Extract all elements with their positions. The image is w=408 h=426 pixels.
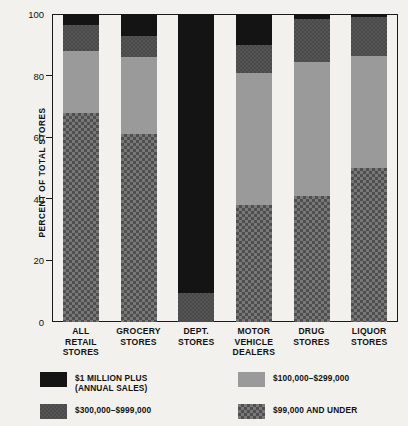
legend-item: $1 MILLION PLUS(ANNUAL SALES) bbox=[40, 372, 147, 393]
bar-stack bbox=[294, 14, 330, 322]
bar-segment bbox=[178, 14, 214, 293]
y-axis-tick-label: 0 bbox=[0, 317, 44, 328]
legend-item: $100,000–$299,000 bbox=[238, 372, 349, 387]
bar-segment bbox=[351, 56, 387, 168]
legend-swatch bbox=[40, 404, 67, 419]
bar-stack bbox=[63, 14, 99, 322]
bar-segment bbox=[121, 36, 157, 58]
bar-segment bbox=[294, 19, 330, 62]
bar-segment bbox=[351, 17, 387, 56]
bar-segment bbox=[294, 62, 330, 196]
legend-label: $1 MILLION PLUS(ANNUAL SALES) bbox=[75, 372, 147, 393]
category-label-line: STORES bbox=[334, 337, 404, 348]
bar-stack bbox=[236, 14, 272, 322]
legend-item: $99,000 AND UNDER bbox=[238, 404, 357, 419]
bar-segment bbox=[121, 14, 157, 36]
bar-segment bbox=[121, 134, 157, 322]
legend-label: $300,000–$999,000 bbox=[75, 404, 151, 415]
chart-page: PERCENT OF TOTAL STORES 020406080100 ALL… bbox=[0, 0, 408, 426]
bar-segment bbox=[63, 14, 99, 25]
bar-segment bbox=[294, 196, 330, 322]
legend-sublabel: (ANNUAL SALES) bbox=[75, 383, 147, 393]
bar-segment bbox=[63, 25, 99, 51]
y-axis-tick-label: 60 bbox=[0, 132, 44, 143]
category-label-line: DEALERS bbox=[219, 347, 289, 358]
legend-item: $300,000–$999,000 bbox=[40, 404, 151, 419]
y-axis-tick-label: 100 bbox=[0, 9, 44, 20]
bar-segment bbox=[63, 113, 99, 322]
legend-swatch bbox=[238, 372, 265, 387]
y-axis-tick-label: 80 bbox=[0, 70, 44, 81]
category-label-line: STORES bbox=[46, 347, 116, 358]
y-axis-tick-label: 20 bbox=[0, 255, 44, 266]
legend-swatch bbox=[40, 372, 67, 387]
bar-segment bbox=[236, 45, 272, 73]
y-axis-tick-label: 40 bbox=[0, 193, 44, 204]
bar-segment bbox=[236, 14, 272, 45]
bar-segment bbox=[294, 14, 330, 19]
bar-segment bbox=[236, 205, 272, 322]
bar-segment bbox=[236, 73, 272, 205]
bar-segment bbox=[121, 57, 157, 134]
legend-label: $99,000 AND UNDER bbox=[273, 404, 357, 415]
bar-stack bbox=[351, 14, 387, 322]
bar-segment bbox=[63, 51, 99, 113]
x-axis-category-label: LIQUORSTORES bbox=[334, 326, 404, 347]
bar-segment bbox=[351, 14, 387, 17]
bar-stack bbox=[178, 14, 214, 322]
legend-swatch bbox=[238, 404, 265, 419]
bar-segment bbox=[351, 168, 387, 322]
bar-segment bbox=[178, 293, 214, 322]
legend-label: $100,000–$299,000 bbox=[273, 372, 349, 383]
bars-layer bbox=[52, 14, 398, 322]
category-label-line: LIQUOR bbox=[334, 326, 404, 337]
bar-stack bbox=[121, 14, 157, 322]
